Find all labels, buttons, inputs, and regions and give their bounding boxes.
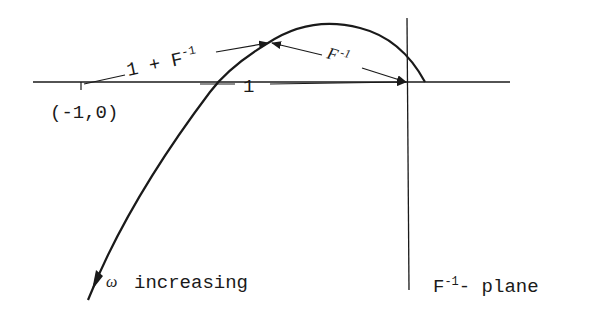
vector-sum-label-sup: -1 — [180, 44, 197, 61]
vector-finv-seg1 — [272, 43, 322, 55]
plane-label-base: F — [433, 276, 444, 298]
vector-finv-seg2 — [362, 68, 406, 82]
critical-point-label: (-1,0) — [50, 102, 118, 124]
omega-symbol: ω — [106, 273, 117, 290]
unit-vector-label: 1 — [243, 76, 254, 98]
vector-sum-label: 1 + F-1 — [124, 44, 199, 82]
plane-label-sup: -1 — [444, 275, 458, 289]
inverse-vector-label-base: F — [324, 43, 341, 65]
vector-sum-label-text: 1 + F-1 — [124, 44, 199, 82]
plane-label-suffix: - plane — [459, 276, 539, 298]
inverse-vector-label-text: F-1 — [324, 41, 352, 68]
direction-label: increasing — [134, 272, 248, 294]
nyquist-diagram: (-1,0) 1 + F-1 1 F-1 ω increasing F-1- p… — [0, 0, 592, 312]
omega-direction-arrowhead — [92, 270, 103, 290]
inverse-vector-label: F-1 — [324, 41, 352, 68]
vector-sum-label-base: 1 + F — [125, 48, 185, 81]
plane-label: F-1- plane — [433, 275, 539, 298]
inverse-vector-label-sup: -1 — [339, 45, 352, 61]
